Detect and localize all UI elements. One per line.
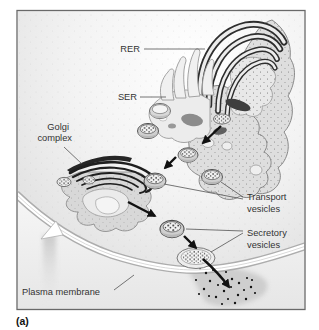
budding-vesicle [214, 114, 231, 124]
transport-vesicle [202, 169, 223, 184]
transport-vesicle [144, 173, 166, 189]
label-golgi-line1: Golgi [47, 122, 69, 132]
label-transport-line1: Transport [247, 192, 287, 202]
label-golgi-line2: complex [37, 133, 72, 143]
label-ser: SER [118, 92, 137, 102]
secretory-vesicle [160, 220, 184, 237]
membrane-fold-shadow [43, 235, 56, 310]
transport-vesicle [178, 148, 198, 162]
panel-label: (a) [16, 315, 29, 327]
label-transport-line2: vesicles [247, 204, 280, 214]
label-plasma-membrane: Plasma membrane [22, 287, 100, 297]
figure-panel: RER SER Golgi complex Transport vesicles… [0, 0, 319, 330]
label-secretory-line2: vesicles [247, 240, 280, 250]
label-rer: RER [120, 44, 140, 54]
transport-vesicle [138, 123, 159, 138]
ser-bud-vesicle [150, 103, 171, 118]
cell-diagram: RER SER Golgi complex Transport vesicles… [0, 0, 319, 330]
label-secretory-line1: Secretory [247, 228, 287, 238]
